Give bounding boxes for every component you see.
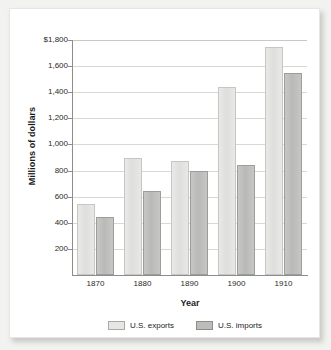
figure-root: 2004006008001,0001,2001,4001,600$1,800 M… (0, 0, 331, 350)
bar-group (171, 40, 208, 275)
legend-entry: U.S. imports (196, 321, 262, 330)
bar-group (77, 40, 114, 275)
y-axis-tick-label: 800 (55, 167, 68, 175)
y-axis-tick-label: 200 (55, 245, 68, 253)
bar-imports-1910 (284, 73, 302, 275)
y-axis-tick-label: 400 (55, 219, 68, 227)
chart-card: 2004006008001,0001,2001,4001,600$1,800 M… (9, 8, 320, 338)
y-axis-tick-label: 1,400 (48, 88, 68, 96)
x-axis-tick-label: 1890 (166, 280, 213, 288)
bar-group (124, 40, 161, 275)
y-axis-tick-label: 1,000 (48, 140, 68, 148)
bar-exports-1870 (77, 204, 95, 275)
x-axis-tick-label: 1900 (213, 280, 260, 288)
bar-imports-1870 (96, 217, 114, 275)
bar-imports-1880 (143, 191, 161, 275)
x-axis-tick-label: 1880 (119, 280, 166, 288)
chart-legend: U.S. exportsU.S. imports (60, 321, 310, 330)
x-axis-line (72, 275, 308, 276)
legend-swatch-imports (196, 321, 213, 330)
y-axis-tick-labels: 2004006008001,0001,2001,4001,600$1,800 (10, 9, 68, 350)
x-axis-tick-label: 1910 (260, 280, 307, 288)
bar-imports-1900 (237, 165, 255, 275)
legend-label: U.S. exports (130, 321, 174, 330)
x-axis-title: Year (72, 298, 308, 308)
x-axis-tick-labels: 18701880189019001910 (72, 280, 308, 294)
bar-exports-1910 (265, 47, 283, 275)
bar-group (218, 40, 255, 275)
bar-imports-1890 (190, 171, 208, 275)
legend-swatch-exports (108, 321, 125, 330)
y-axis-tick-label: 1,200 (48, 114, 68, 122)
legend-label: U.S. imports (218, 321, 262, 330)
bar-group (265, 40, 302, 275)
bar-exports-1900 (218, 87, 236, 275)
x-axis-tick-label: 1870 (72, 280, 119, 288)
bar-exports-1890 (171, 161, 189, 275)
bar-exports-1880 (124, 158, 142, 275)
y-axis-title-text: Millions of dollars (27, 91, 37, 201)
y-axis-tick-label: 600 (55, 193, 68, 201)
y-axis-tick-label: 1,600 (48, 62, 68, 70)
plot-area (72, 40, 307, 275)
legend-entry: U.S. exports (108, 321, 174, 330)
y-axis-line (72, 40, 73, 276)
y-axis-tick-label: $1,800 (44, 36, 68, 44)
